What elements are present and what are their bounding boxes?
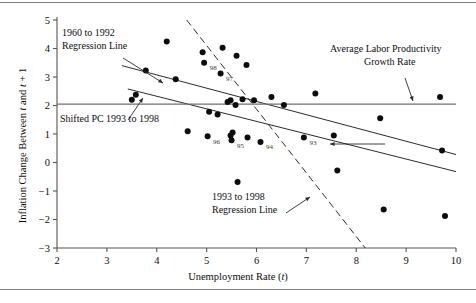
- data-point-9: [234, 53, 240, 59]
- y-tick-label-0: 0: [45, 157, 50, 168]
- data-point-25: [235, 179, 241, 185]
- data-point-30: [331, 132, 337, 138]
- y-tick-label-5: 5: [45, 15, 50, 26]
- data-point-32: [377, 115, 383, 121]
- y-tick-label-1: 1: [45, 129, 50, 140]
- annotation-text-regression-1960-1992-line2: Regression Line: [62, 40, 128, 51]
- data-point-26: [268, 94, 274, 100]
- y-tick-label--1: −1: [39, 186, 50, 197]
- annotation-arrowhead-regression-1960-1992: [158, 79, 163, 83]
- x-axis-title: Unemployment Rate (t): [0, 271, 476, 282]
- data-point-16: [206, 109, 212, 115]
- annotation-text-regression-1960-1992-line1: 1960 to 1992: [62, 27, 115, 38]
- annotation-arrow-regression-1960-1992: [123, 58, 163, 83]
- annotation-arrowhead-regression-1993-1998: [305, 197, 310, 201]
- data-point-6: [201, 60, 207, 66]
- data-point-5: [200, 49, 206, 55]
- y-tick-label-2: 2: [45, 100, 50, 111]
- x-tick-label-2: 2: [54, 255, 59, 266]
- annotation-text-regression-1993-1998-line2: Regression Line: [212, 204, 278, 215]
- data-point-17: [215, 112, 221, 118]
- y-tick-label-3: 3: [45, 72, 50, 83]
- data-point-33: [381, 207, 387, 213]
- data-point-3: [164, 38, 170, 44]
- data-point-21: [229, 137, 235, 143]
- data-point-28: [301, 134, 307, 140]
- x-tick-label-4: 4: [154, 255, 160, 266]
- annotation-arrowhead-average-labor-productivity: [410, 96, 414, 101]
- annotation-text-shifted-pc-1993-1998-line1: Shifted PC 1993 to 1998: [60, 113, 159, 124]
- data-point-29: [312, 91, 318, 97]
- data-point-19: [205, 133, 211, 139]
- data-point-23: [245, 134, 251, 140]
- data-point-label-93: 93: [309, 139, 317, 147]
- data-point-1: [133, 92, 139, 98]
- annotation-text-average-labor-productivity-line1: Average Labor Productivity: [330, 43, 441, 54]
- data-point-10: [244, 62, 250, 68]
- data-point-4: [173, 76, 179, 82]
- data-point-13: [233, 102, 239, 108]
- x-tick-label-7: 7: [304, 255, 309, 266]
- y-tick-label--2: −2: [39, 214, 50, 225]
- data-point-35: [439, 148, 445, 154]
- x-tick-label-9: 9: [404, 255, 409, 266]
- x-tick-label-8: 8: [354, 255, 359, 266]
- trend-line-shifted-pc-1993-to-1998: [128, 89, 456, 172]
- data-point-24: [257, 139, 263, 145]
- annotation-arrowhead-shifted-pc-1993-1998: [139, 98, 143, 103]
- data-point-label-94: 94: [266, 143, 274, 151]
- annotation-text-regression-1993-1998-line1: 1993 to 1998: [212, 191, 265, 202]
- data-point-label-97: 97: [226, 75, 234, 83]
- data-point-31: [334, 167, 340, 173]
- data-point-14: [240, 96, 246, 102]
- y-axis-title: Inflation Change Between t and t + 1: [17, 46, 28, 246]
- scatter-plot-canvas: 543210−1−2−323456789109897969594931960 t…: [0, 0, 476, 303]
- x-tick-label-5: 5: [204, 255, 209, 266]
- annotation-arrowhead-shifted-pc-pointer: [330, 142, 335, 146]
- x-tick-label-3: 3: [104, 255, 109, 266]
- data-point-0: [129, 97, 135, 103]
- x-tick-label-6: 6: [254, 255, 259, 266]
- data-point-label-95: 95: [237, 142, 245, 150]
- x-tick-label-10: 10: [451, 255, 462, 266]
- annotation-text-average-labor-productivity-line2: Growth Rate: [364, 56, 416, 67]
- y-tick-label-4: 4: [45, 43, 51, 54]
- data-point-22: [230, 130, 236, 136]
- phillips-curve-figure: 543210−1−2−323456789109897969594931960 t…: [0, 0, 476, 303]
- data-point-label-98: 98: [210, 64, 218, 72]
- data-point-34: [437, 94, 443, 100]
- data-point-18: [185, 128, 191, 134]
- data-point-15: [251, 97, 257, 103]
- trend-line-1960-to-1992-regression-line: [122, 66, 456, 155]
- data-point-label-96: 96: [213, 138, 221, 146]
- data-point-12: [228, 97, 234, 103]
- data-point-36: [442, 213, 448, 219]
- data-point-8: [218, 71, 224, 77]
- y-tick-label--3: −3: [39, 243, 50, 254]
- data-point-27: [281, 102, 287, 108]
- data-point-7: [220, 45, 226, 51]
